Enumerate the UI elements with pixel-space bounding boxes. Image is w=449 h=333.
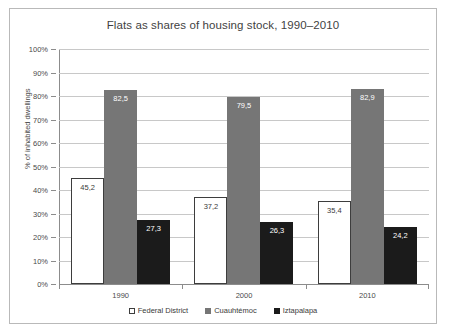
bar-value-label: 26,3	[270, 226, 285, 235]
y-tick-label: 30%	[33, 209, 48, 218]
y-tick-0	[51, 284, 56, 285]
plot-area: 0%10%20%30%40%50%60%70%80%90%100% 45,282…	[59, 49, 429, 284]
bar-value-label: 24,2	[393, 231, 408, 240]
y-tick-10	[51, 261, 56, 262]
y-tick-100	[51, 49, 56, 50]
y-tick-label: 90%	[33, 68, 48, 77]
x-tick-label-2000: 2000	[182, 291, 305, 300]
bar-iztapalapa-1990[interactable]: 27,3	[137, 220, 170, 284]
bar-value-label: 27,3	[146, 224, 161, 233]
x-tick-label-2010: 2010	[306, 291, 429, 300]
legend-swatch-icon	[129, 308, 135, 314]
y-tick-90	[51, 73, 56, 74]
y-tick-80	[51, 96, 56, 97]
y-tick-40	[51, 190, 56, 191]
y-tick-20	[51, 237, 56, 238]
y-tick-label: 40%	[33, 186, 48, 195]
y-tick-50	[51, 167, 56, 168]
x-tick	[428, 284, 429, 289]
gridline-0	[59, 284, 429, 285]
bar-cuauht-moc-2000[interactable]: 79,5	[227, 97, 260, 284]
y-tick-30	[51, 214, 56, 215]
legend-swatch-icon	[274, 308, 280, 314]
y-tick-label: 0%	[37, 280, 48, 289]
chart-legend: Federal DistrictCuauhtémocIztapalapa	[10, 306, 436, 315]
bar-value-label: 37,2	[204, 202, 219, 211]
y-tick-label: 70%	[33, 115, 48, 124]
legend-item-iztapalapa[interactable]: Iztapalapa	[274, 306, 318, 315]
legend-label: Cuauhtémoc	[214, 306, 257, 315]
bars: 45,282,527,3	[59, 49, 182, 284]
bars: 35,482,924,2	[306, 49, 429, 284]
bar-value-label: 82,5	[113, 94, 128, 103]
bar-federal-district-2000[interactable]: 37,2	[194, 197, 227, 284]
y-tick-60	[51, 143, 56, 144]
legend-item-cuauht-moc[interactable]: Cuauhtémoc	[205, 306, 257, 315]
bar-iztapalapa-2010[interactable]: 24,2	[384, 227, 417, 284]
bar-federal-district-1990[interactable]: 45,2	[71, 178, 104, 284]
x-tick	[59, 284, 60, 289]
y-tick-label: 10%	[33, 256, 48, 265]
bar-cuauht-moc-1990[interactable]: 82,5	[104, 90, 137, 284]
bars: 37,279,526,3	[182, 49, 305, 284]
x-tick	[306, 284, 307, 289]
bar-group-1990: 45,282,527,31990	[59, 49, 182, 284]
bar-federal-district-2010[interactable]: 35,4	[318, 201, 351, 284]
legend-label: Iztapalapa	[283, 306, 318, 315]
x-tick-label-1990: 1990	[59, 291, 182, 300]
bar-group-2010: 35,482,924,22010	[306, 49, 429, 284]
bar-cuauht-moc-2010[interactable]: 82,9	[351, 89, 384, 284]
bar-value-label: 35,4	[327, 206, 342, 215]
bar-iztapalapa-2000[interactable]: 26,3	[260, 222, 293, 284]
y-tick-label: 50%	[33, 162, 48, 171]
bar-value-label: 79,5	[237, 101, 252, 110]
y-tick-label: 80%	[33, 92, 48, 101]
y-axis-title: % of inhabited dwellings	[23, 89, 32, 169]
y-tick-label: 20%	[33, 233, 48, 242]
legend-item-federal-district[interactable]: Federal District	[129, 306, 188, 315]
bar-value-label: 82,9	[360, 93, 375, 102]
chart-frame: Flats as shares of housing stock, 1990–2…	[9, 8, 437, 324]
y-tick-70	[51, 120, 56, 121]
bar-value-label: 45,2	[80, 183, 95, 192]
legend-label: Federal District	[138, 306, 188, 315]
legend-swatch-icon	[205, 308, 211, 314]
y-tick-label: 60%	[33, 139, 48, 148]
y-tick-label: 100%	[29, 45, 48, 54]
chart-title: Flats as shares of housing stock, 1990–2…	[10, 19, 436, 31]
bar-group-2000: 37,279,526,32000	[182, 49, 305, 284]
x-tick	[182, 284, 183, 289]
